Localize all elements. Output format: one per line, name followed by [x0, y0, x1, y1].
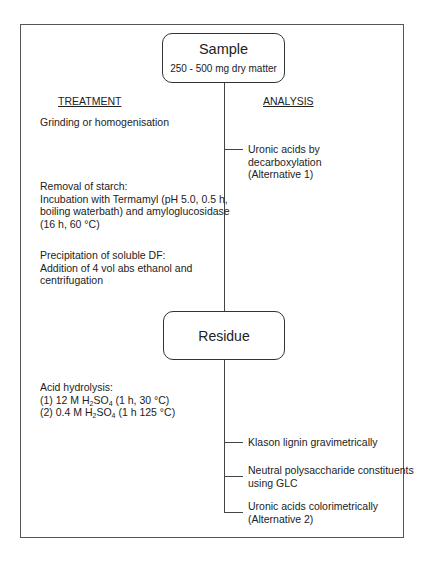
analysis-header: ANALYSIS [263, 95, 314, 107]
analysis-uronic-colorimetric: Uronic acids colorimetrically (Alternati… [248, 500, 378, 525]
branch-uronic2 [224, 512, 243, 513]
main-flow-line [224, 83, 225, 512]
residue-title: Residue [198, 328, 249, 344]
sample-title: Sample [163, 41, 284, 57]
analysis-neutral-polysaccharide: Neutral polysaccharide constituents usin… [248, 464, 414, 489]
treatment-grinding: Grinding or homogenisation [40, 116, 169, 129]
treatment-starch: Removal of starch: Incubation with Terma… [40, 180, 230, 230]
treatment-precipitation: Precipitation of soluble DF: Addition of… [40, 249, 192, 287]
analysis-klason: Klason lignin gravimetrically [248, 436, 378, 449]
acid-step-2: (2) 0.4 M H2SO4 (1 h 125 °C) [40, 406, 175, 419]
treatment-acid-hydrolysis: Acid hydrolysis: (1) 12 M H2SO4 (1 h, 30… [40, 381, 175, 419]
sample-subtitle: 250 - 500 mg dry matter [163, 63, 284, 74]
analysis-uronic-decarboxylation: Uronic acids by decarboxylation (Alterna… [248, 143, 322, 181]
branch-klason [224, 442, 243, 443]
sample-box: Sample 250 - 500 mg dry matter [162, 33, 285, 83]
branch-neutral [224, 476, 243, 477]
residue-box: Residue [163, 311, 285, 360]
acid-step-1: (1) 12 M H2SO4 (1 h, 30 °C) [40, 394, 175, 407]
treatment-header: TREATMENT [58, 95, 121, 107]
branch-uronic1 [224, 149, 243, 150]
